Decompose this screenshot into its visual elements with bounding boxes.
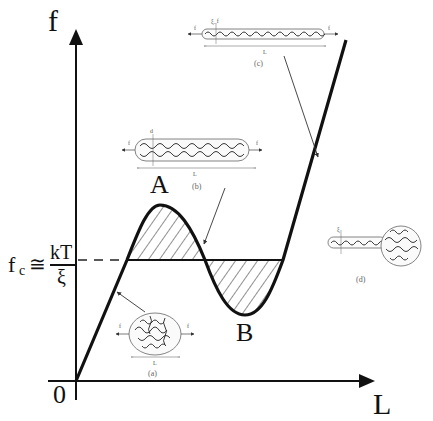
y-axis-arrow-icon bbox=[69, 29, 83, 45]
inset-d-caption: (d) bbox=[356, 276, 365, 284]
y-axis-label: f bbox=[48, 6, 58, 36]
inset-c-caption: (c) bbox=[254, 60, 263, 68]
origin-label: 0 bbox=[53, 382, 66, 408]
fc-subscript: c bbox=[19, 264, 25, 278]
x-axis bbox=[48, 374, 375, 388]
pointer-arrow-b bbox=[204, 188, 225, 244]
pointer-arrow-a bbox=[117, 292, 145, 312]
inset-a-force-right: f bbox=[187, 323, 189, 329]
inset-c-force-left: f bbox=[194, 25, 196, 31]
inset-c-width: ξ_f bbox=[211, 18, 219, 24]
x-axis-label: L bbox=[373, 389, 391, 419]
inset-a-caption: (a) bbox=[148, 370, 157, 378]
inset-b-force-left: f bbox=[128, 140, 130, 146]
force-extension-curve bbox=[76, 40, 346, 381]
point-b-label: B bbox=[236, 320, 253, 346]
x-axis-arrow-icon bbox=[359, 374, 375, 388]
fc-approx-sign: ≅ bbox=[29, 254, 46, 274]
fc-numerator: kT bbox=[50, 242, 72, 262]
inset-b-width: d bbox=[150, 128, 153, 134]
inset-a-globule bbox=[116, 313, 194, 357]
critical-force-label: f c ≅ kT ξ bbox=[8, 238, 78, 288]
pointer-arrow-c bbox=[284, 56, 318, 157]
inset-b-caption: (b) bbox=[192, 183, 201, 191]
fc-denominator: ξ bbox=[57, 267, 66, 287]
inset-b-length: L bbox=[193, 171, 197, 177]
inset-c-thin-cylinder bbox=[188, 24, 338, 46]
inset-a-length: L bbox=[153, 360, 157, 366]
inset-d-tadpole bbox=[328, 226, 421, 266]
inset-c-force-right: f bbox=[328, 25, 330, 31]
y-axis bbox=[69, 29, 83, 400]
inset-b-force-right: f bbox=[256, 140, 258, 146]
force-extension-diagram bbox=[0, 0, 433, 421]
inset-a-force-left: f bbox=[119, 323, 121, 329]
point-a-label: A bbox=[150, 172, 169, 198]
inset-b-thick-cylinder bbox=[122, 134, 262, 168]
fc-symbol: f bbox=[8, 254, 15, 276]
inset-d-width: ξ bbox=[337, 226, 340, 232]
inset-c-length: L bbox=[263, 49, 267, 55]
